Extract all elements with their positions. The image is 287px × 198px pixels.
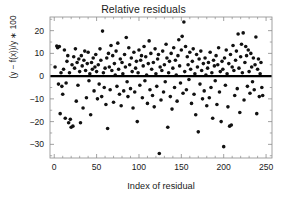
data-point bbox=[224, 48, 228, 52]
data-point bbox=[141, 96, 145, 100]
data-point bbox=[203, 56, 207, 60]
data-point bbox=[119, 57, 123, 61]
data-point bbox=[165, 56, 169, 60]
data-point bbox=[85, 96, 89, 100]
data-point bbox=[249, 52, 253, 56]
data-point bbox=[117, 68, 121, 72]
data-point bbox=[242, 98, 246, 102]
data-point bbox=[260, 86, 264, 90]
data-point bbox=[112, 100, 116, 104]
data-point bbox=[78, 70, 82, 74]
data-point bbox=[67, 121, 71, 125]
data-point bbox=[129, 87, 133, 91]
data-point bbox=[156, 57, 160, 61]
data-point bbox=[91, 56, 95, 60]
data-point bbox=[137, 48, 141, 52]
data-point bbox=[73, 66, 77, 70]
data-point bbox=[57, 82, 61, 86]
data-point bbox=[144, 55, 148, 59]
data-point bbox=[253, 63, 257, 67]
data-point bbox=[235, 49, 239, 53]
data-point bbox=[163, 63, 167, 67]
data-point bbox=[95, 70, 99, 74]
data-point bbox=[60, 85, 64, 89]
data-point bbox=[138, 83, 142, 87]
data-point bbox=[230, 65, 234, 69]
data-point bbox=[254, 35, 258, 39]
data-point bbox=[63, 116, 67, 120]
x-tick-label: 0 bbox=[52, 162, 57, 172]
data-point bbox=[160, 69, 164, 73]
data-point bbox=[158, 152, 162, 156]
data-point bbox=[190, 102, 194, 106]
data-point bbox=[255, 112, 259, 116]
data-point bbox=[216, 63, 220, 67]
data-point bbox=[244, 45, 248, 49]
data-point bbox=[252, 88, 256, 92]
data-point bbox=[236, 32, 240, 36]
data-point bbox=[146, 102, 150, 106]
x-tick-label: 200 bbox=[217, 162, 232, 172]
data-point bbox=[157, 53, 161, 57]
y-tick-label: −30 bbox=[29, 139, 44, 149]
data-point bbox=[166, 126, 170, 130]
data-point bbox=[133, 90, 137, 94]
data-point bbox=[68, 71, 72, 75]
data-point bbox=[248, 91, 252, 95]
data-point bbox=[125, 80, 129, 84]
x-tick-label: 50 bbox=[92, 162, 102, 172]
data-point bbox=[147, 39, 151, 43]
data-point bbox=[155, 85, 159, 89]
data-point bbox=[135, 120, 139, 124]
data-point bbox=[124, 65, 128, 69]
data-point bbox=[199, 49, 203, 53]
data-point bbox=[252, 56, 256, 60]
data-point bbox=[230, 123, 234, 127]
data-point bbox=[131, 106, 135, 110]
data-point bbox=[200, 69, 204, 73]
data-point bbox=[208, 96, 212, 100]
data-point bbox=[180, 35, 184, 39]
data-point bbox=[184, 45, 188, 49]
data-point bbox=[182, 20, 186, 24]
data-point bbox=[71, 124, 75, 128]
data-point bbox=[119, 104, 123, 108]
data-point bbox=[186, 63, 190, 67]
data-point bbox=[152, 105, 156, 109]
data-point bbox=[238, 111, 242, 115]
data-point bbox=[232, 69, 236, 73]
data-point bbox=[108, 65, 112, 69]
data-point bbox=[175, 99, 179, 103]
y-tick-label: 20 bbox=[34, 26, 44, 36]
data-point bbox=[222, 145, 226, 149]
data-point bbox=[63, 48, 67, 52]
data-point bbox=[198, 82, 202, 86]
data-point bbox=[231, 44, 235, 48]
data-point bbox=[206, 66, 210, 70]
data-point bbox=[162, 90, 166, 94]
data-point bbox=[123, 53, 127, 57]
data-point bbox=[185, 88, 189, 92]
data-point bbox=[84, 69, 88, 73]
data-point bbox=[207, 61, 211, 65]
data-point bbox=[109, 44, 113, 48]
data-point bbox=[99, 58, 103, 62]
data-point bbox=[150, 68, 154, 72]
data-point bbox=[59, 71, 63, 75]
data-point bbox=[127, 46, 131, 50]
data-point bbox=[80, 54, 84, 58]
data-point bbox=[128, 63, 132, 67]
data-point bbox=[173, 86, 177, 90]
data-point bbox=[191, 60, 195, 64]
y-tick-label: 0 bbox=[39, 71, 44, 81]
data-point bbox=[213, 79, 217, 83]
data-point bbox=[58, 112, 62, 116]
data-point bbox=[83, 49, 87, 53]
data-point bbox=[114, 49, 118, 53]
data-point bbox=[170, 107, 174, 111]
data-point bbox=[139, 58, 143, 62]
data-point bbox=[192, 93, 196, 97]
data-point bbox=[94, 53, 98, 57]
data-point bbox=[245, 54, 249, 58]
data-point bbox=[201, 97, 205, 101]
